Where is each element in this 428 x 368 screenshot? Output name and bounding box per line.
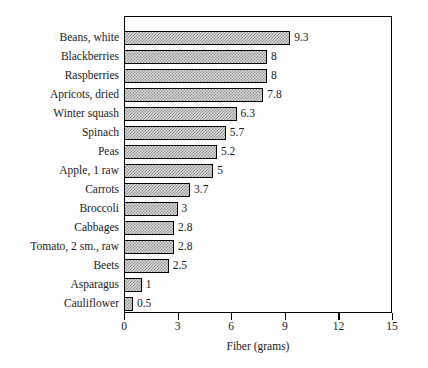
bar-value-label: 5.2 bbox=[221, 146, 235, 158]
bar bbox=[124, 221, 174, 235]
bar bbox=[124, 69, 267, 83]
x-tick bbox=[231, 313, 232, 320]
x-tick bbox=[285, 313, 286, 320]
x-tick bbox=[178, 313, 179, 320]
category-label: Carrots bbox=[0, 184, 119, 196]
bar-row: 7.8 bbox=[124, 88, 392, 102]
bar-row: 3 bbox=[124, 202, 392, 216]
x-tick bbox=[392, 313, 393, 320]
bar bbox=[124, 107, 237, 121]
category-label: Cabbages bbox=[0, 222, 119, 234]
x-axis-tick-labels: 03691215 bbox=[0, 321, 428, 337]
bar-value-label: 3 bbox=[182, 203, 188, 215]
bar-row: 8 bbox=[124, 69, 392, 83]
category-label: Spinach bbox=[0, 127, 119, 139]
category-label: Apricots, dried bbox=[0, 89, 119, 101]
bar-row: 3.7 bbox=[124, 183, 392, 197]
bar-row: 2.5 bbox=[124, 259, 392, 273]
bar-value-label: 2.8 bbox=[178, 222, 192, 234]
bar bbox=[124, 164, 213, 178]
x-tick-label: 0 bbox=[121, 321, 127, 333]
bar-value-label: 8 bbox=[271, 52, 277, 64]
bar-value-label: 8 bbox=[271, 71, 277, 83]
bar-value-label: 2.5 bbox=[173, 260, 187, 272]
bar-value-label: 7.8 bbox=[267, 90, 281, 102]
x-axis-title: Fiber (grams) bbox=[124, 341, 392, 353]
bar bbox=[124, 50, 267, 64]
category-label: Peas bbox=[0, 146, 119, 158]
bar-row: 9.3 bbox=[124, 31, 392, 45]
bar-row: 6.3 bbox=[124, 107, 392, 121]
bar-value-label: 9.3 bbox=[294, 33, 308, 45]
category-label: Apple, 1 raw bbox=[0, 165, 119, 177]
bar-value-label: 3.7 bbox=[194, 184, 208, 196]
bar bbox=[124, 126, 226, 140]
bar-row: 5.2 bbox=[124, 145, 392, 159]
category-axis-labels: Beans, whiteBlackberriesRaspberriesApric… bbox=[0, 16, 119, 313]
category-label: Beets bbox=[0, 260, 119, 272]
bar-row: 0.5 bbox=[124, 297, 392, 311]
bar bbox=[124, 88, 263, 102]
category-label: Cauliflower bbox=[0, 298, 119, 310]
bar-value-label: 2.8 bbox=[178, 241, 192, 253]
bar bbox=[124, 202, 178, 216]
bar-row: 1 bbox=[124, 278, 392, 292]
bar-row: 5 bbox=[124, 164, 392, 178]
bars-layer: 9.3887.86.35.75.253.732.82.82.510.5 bbox=[124, 16, 392, 313]
fiber-bar-chart: Beans, whiteBlackberriesRaspberriesApric… bbox=[0, 0, 428, 368]
bar-row: 5.7 bbox=[124, 126, 392, 140]
category-label: Beans, white bbox=[0, 32, 119, 44]
bar-row: 2.8 bbox=[124, 240, 392, 254]
x-axis-ticks bbox=[124, 313, 392, 321]
bar bbox=[124, 240, 174, 254]
category-label: Winter squash bbox=[0, 108, 119, 120]
bar-value-label: 0.5 bbox=[137, 298, 151, 310]
bar-value-label: 6.3 bbox=[241, 108, 255, 120]
bar-value-label: 5.7 bbox=[230, 127, 244, 139]
bar bbox=[124, 31, 290, 45]
category-label: Blackberries bbox=[0, 51, 119, 63]
bar bbox=[124, 297, 133, 311]
category-label: Tomato, 2 sm., raw bbox=[0, 241, 119, 253]
category-label: Broccoli bbox=[0, 203, 119, 215]
category-label: Raspberries bbox=[0, 70, 119, 82]
x-tick-label: 9 bbox=[282, 321, 288, 333]
bar bbox=[124, 183, 190, 197]
bar-row: 8 bbox=[124, 50, 392, 64]
bar-value-label: 5 bbox=[217, 165, 223, 177]
x-tick bbox=[124, 313, 125, 320]
bar-row: 2.8 bbox=[124, 221, 392, 235]
bar-value-label: 1 bbox=[146, 279, 152, 291]
x-tick-label: 3 bbox=[175, 321, 181, 333]
x-tick bbox=[338, 313, 339, 320]
category-label: Asparagus bbox=[0, 279, 119, 291]
x-tick-label: 15 bbox=[386, 321, 398, 333]
bar bbox=[124, 145, 217, 159]
x-tick-label: 12 bbox=[333, 321, 345, 333]
x-tick-label: 6 bbox=[228, 321, 234, 333]
bar bbox=[124, 278, 142, 292]
bar bbox=[124, 259, 169, 273]
